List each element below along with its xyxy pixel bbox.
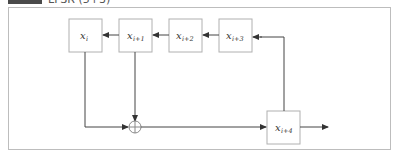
feedback-line <box>260 37 284 111</box>
svg-text:i+1: i+1 <box>133 35 145 43</box>
lfsr-diagram: xi xi+1 xi+2 xi+3 xi+4 <box>0 0 400 161</box>
xor-icon <box>129 121 141 133</box>
svg-text:i+4: i+4 <box>281 127 293 135</box>
register-box-xi3: xi+3 <box>219 19 252 52</box>
svg-text:i+2: i+2 <box>182 35 194 43</box>
register-box-xi4: xi+4 <box>267 111 300 144</box>
register-box-xi1: xi+1 <box>119 19 152 52</box>
register-box-xi2: xi+2 <box>169 19 202 52</box>
tap-xi-line <box>85 52 128 127</box>
svg-text:i+3: i+3 <box>232 35 244 43</box>
register-box-xi: xi <box>69 19 102 52</box>
svg-text:i: i <box>86 35 88 43</box>
